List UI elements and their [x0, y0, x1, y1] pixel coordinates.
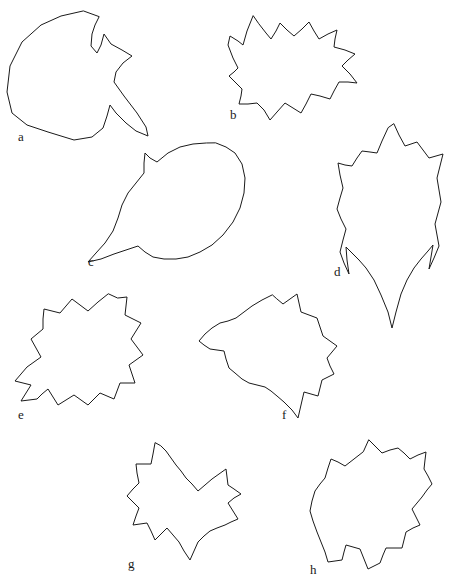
shape-outline-b: [228, 16, 357, 120]
shape-label-b: b: [230, 108, 237, 121]
figure-container: abcdefgh: [0, 0, 456, 578]
shape-label-c: c: [88, 255, 94, 268]
shape-label-f: f: [282, 408, 286, 421]
shape-label-g: g: [128, 557, 135, 570]
shape-label-a: a: [18, 130, 24, 143]
shape-outline-c: [88, 143, 245, 262]
shape-outline-f: [199, 294, 337, 418]
shape-outline-a: [7, 11, 148, 140]
shapes-canvas: [0, 0, 456, 578]
shape-label-d: d: [334, 265, 341, 278]
shape-label-h: h: [310, 563, 317, 576]
shape-label-e: e: [18, 408, 24, 421]
shape-outline-d: [337, 124, 443, 328]
shape-outline-e: [15, 294, 143, 405]
shape-outline-h: [310, 440, 432, 569]
shape-outline-g: [127, 443, 241, 560]
